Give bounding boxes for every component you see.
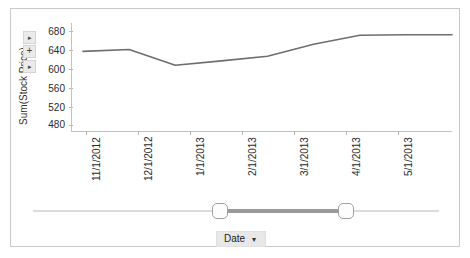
chevron-down-icon: ▾ (252, 235, 256, 244)
line-series-path (11, 9, 461, 194)
date-dropdown-button[interactable]: Date▾ (216, 231, 266, 247)
line-chart: Sum(Stock Price) ▸ + ▸ 680 640 600 560 5… (11, 9, 461, 194)
stock-price-trend-panel: Sum(Stock Price) ▸ + ▸ 680 640 600 560 5… (10, 8, 460, 247)
date-range-slider[interactable] (11, 199, 461, 225)
slider-selected-range[interactable] (220, 209, 346, 213)
slider-handle-right[interactable] (338, 203, 354, 219)
screenshot-root: Sum(Stock Price) ▸ + ▸ 680 640 600 560 5… (0, 0, 470, 258)
slider-handle-left[interactable] (212, 203, 228, 219)
date-dropdown-label: Date (224, 233, 245, 244)
